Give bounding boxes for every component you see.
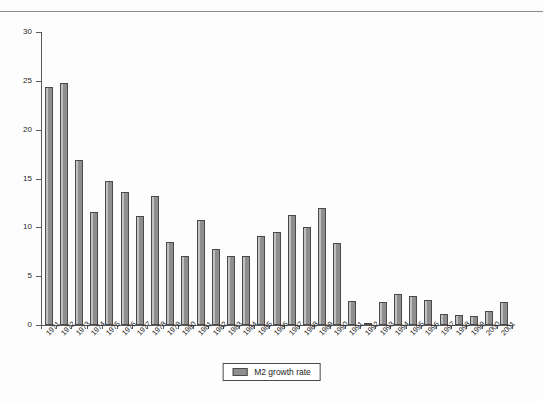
bar-1995 [409,296,417,325]
bar-1990 [333,243,341,325]
y-axis-tick: 25 [36,81,41,82]
y-axis-tick-label: 20 [23,124,32,135]
bar-1989 [318,208,326,325]
bar-1972 [60,83,68,325]
y-axis-tick-label: 0 [28,319,32,330]
y-axis-tick: 5 [36,276,41,277]
y-axis-tick: 10 [36,227,41,228]
bar-1977 [136,216,144,325]
bar-1984 [242,256,250,325]
y-axis-tick-label: 5 [28,270,32,281]
bar-1971 [45,87,53,325]
bar-1986 [273,232,281,325]
chart-legend: M2 growth rate [222,363,321,381]
plot-area: 051015202530 [41,32,512,325]
bar-1981 [197,220,205,325]
y-axis-tick: 30 [36,32,41,33]
m2-growth-rate-swatch [232,368,247,376]
y-axis-tick-label: 15 [23,173,32,184]
bar-1994 [394,294,402,325]
bar-1987 [288,215,296,325]
y-axis-tick: 20 [36,130,41,131]
y-axis-tick-label: 10 [23,221,32,232]
bar-1974 [90,212,98,325]
m2-growth-rate-bar-chart: 051015202530 197119721973197419751976197… [0,0,543,402]
bar-1985 [257,236,265,325]
bar-1978 [151,196,159,325]
bar-1980 [181,256,189,325]
bar-1988 [303,227,311,325]
bar-1979 [166,242,174,325]
y-axis-tick: 15 [36,179,41,180]
bar-1975 [105,181,113,325]
scanned-page: 051015202530 197119721973197419751976197… [0,0,543,402]
bar-1983 [227,256,235,325]
y-axis-tick-label: 25 [23,75,32,86]
legend-label-m2-growth-rate: M2 growth rate [254,367,311,377]
bar-1982 [212,249,220,325]
y-axis-tick-label: 30 [23,26,32,37]
bar-1973 [75,160,83,325]
x-axis-tick [41,325,42,329]
bar-1976 [121,192,129,325]
